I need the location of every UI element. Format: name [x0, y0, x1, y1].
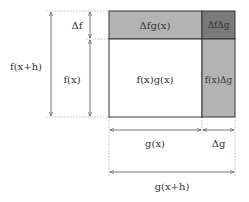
label-g-x: g(x): [145, 138, 165, 149]
label-delta-g: Δg: [212, 138, 226, 149]
label-delta-f-g: Δfg(x): [140, 20, 171, 31]
horizontal-dimension-arrows: [110, 130, 234, 172]
label-g-x-plus-h: g(x+h): [155, 181, 190, 192]
label-f-x-plus-h: f(x+h): [10, 61, 42, 72]
label-f-g: f(x)g(x): [137, 74, 174, 85]
label-f-delta-g: f(x)Δg: [205, 75, 233, 85]
product-rule-diagram: Δfg(x) ΔfΔg f(x)g(x) f(x)Δg f(x+h) Δf f(…: [0, 0, 249, 202]
label-f-x: f(x): [63, 74, 80, 85]
vertical-dimension-arrows: [51, 12, 90, 116]
label-delta-f: Δf: [72, 20, 84, 31]
label-delta-f-delta-g: ΔfΔg: [207, 20, 229, 30]
